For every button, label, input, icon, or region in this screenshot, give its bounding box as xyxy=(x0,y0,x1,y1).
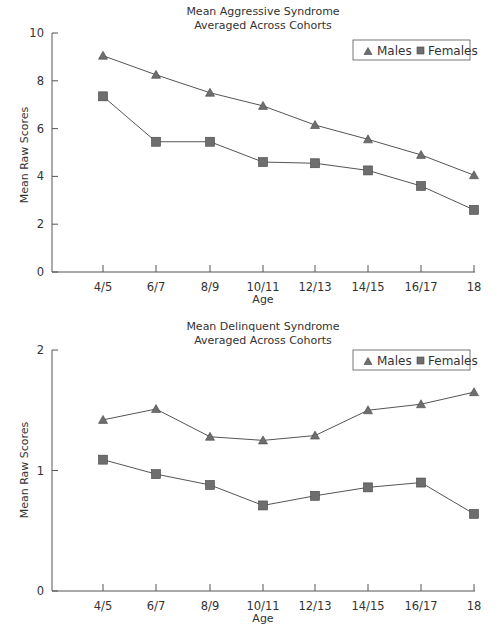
y-tick-label: 0 xyxy=(37,584,44,598)
x-tick-label: 16/17 xyxy=(404,280,437,294)
square-marker-icon xyxy=(417,478,426,487)
square-marker-icon xyxy=(259,501,268,510)
square-marker-icon xyxy=(470,205,479,214)
square-marker-icon xyxy=(311,491,320,500)
y-tick-label: 2 xyxy=(37,217,44,231)
square-marker-icon xyxy=(152,470,161,479)
x-axis: 4/56/78/910/1112/1314/1516/1718 xyxy=(52,265,481,294)
square-marker-icon xyxy=(470,509,479,518)
square-marker-icon xyxy=(152,137,161,146)
x-tick-label: 18 xyxy=(467,599,482,613)
x-axis-label: Age xyxy=(252,612,274,625)
y-tick-label: 6 xyxy=(37,122,44,136)
triangle-marker-icon xyxy=(470,171,479,179)
square-marker-icon xyxy=(99,455,108,464)
x-tick-label: 6/7 xyxy=(147,280,166,294)
legend-females: Females xyxy=(428,354,478,368)
y-tick-label: 4 xyxy=(37,169,44,183)
square-marker-icon xyxy=(259,158,268,167)
x-tick-label: 12/13 xyxy=(298,599,331,613)
triangle-marker-icon xyxy=(152,70,161,78)
y-tick-label: 2 xyxy=(37,343,44,357)
triangle-marker-icon xyxy=(206,432,215,440)
x-tick-label: 12/13 xyxy=(298,280,331,294)
x-tick-label: 4/5 xyxy=(94,599,113,613)
delinquent-syndrome-chart: Mean Delinquent Syndrome Averaged Across… xyxy=(18,320,481,625)
triangle-marker-icon xyxy=(206,88,215,96)
legend: Males Females xyxy=(353,40,478,60)
triangle-marker-icon xyxy=(152,405,161,413)
x-tick-label: 14/15 xyxy=(351,599,384,613)
square-marker-icon xyxy=(364,483,373,492)
x-axis-label: Age xyxy=(252,293,274,306)
x-tick-label: 14/15 xyxy=(351,280,384,294)
chart-title-line1: Mean Aggressive Syndrome xyxy=(186,5,339,18)
square-marker-icon xyxy=(206,480,215,489)
males-line xyxy=(103,392,474,440)
y-tick-label: 8 xyxy=(37,74,44,88)
triangle-marker-icon xyxy=(470,388,479,396)
x-axis: 4/56/78/910/1112/1314/1516/1718 xyxy=(52,584,481,613)
x-tick-label: 10/11 xyxy=(246,280,279,294)
triangle-marker-icon xyxy=(311,121,320,129)
legend-males: Males xyxy=(377,44,412,58)
y-tick-label: 10 xyxy=(29,26,44,40)
y-axis-label: Mean Raw Scores xyxy=(18,421,31,518)
square-marker-icon xyxy=(364,166,373,175)
square-marker-icon xyxy=(417,357,424,364)
series-lines xyxy=(99,388,479,519)
x-tick-label: 6/7 xyxy=(147,599,166,613)
chart-title-line2: Averaged Across Cohorts xyxy=(194,19,332,32)
y-tick-label: 0 xyxy=(37,265,44,279)
females-line xyxy=(103,96,474,210)
x-tick-label: 10/11 xyxy=(246,599,279,613)
square-marker-icon xyxy=(206,137,215,146)
square-marker-icon xyxy=(417,47,424,54)
y-axis: 012 xyxy=(37,343,58,598)
triangle-marker-icon xyxy=(311,431,320,439)
x-tick-label: 8/9 xyxy=(201,280,220,294)
legend: Males Females xyxy=(353,350,478,370)
chart-canvas: Mean Aggressive Syndrome Averaged Across… xyxy=(0,0,497,629)
x-tick-label: 4/5 xyxy=(94,280,113,294)
chart-title-line2: Averaged Across Cohorts xyxy=(194,334,332,347)
legend-females: Females xyxy=(428,44,478,58)
x-tick-label: 8/9 xyxy=(201,599,220,613)
series-lines xyxy=(99,51,479,214)
triangle-marker-icon xyxy=(99,51,108,59)
square-marker-icon xyxy=(99,92,108,101)
aggressive-syndrome-chart: Mean Aggressive Syndrome Averaged Across… xyxy=(18,5,481,306)
square-marker-icon xyxy=(417,181,426,190)
y-axis: 0246810 xyxy=(29,26,58,279)
square-marker-icon xyxy=(311,159,320,168)
x-tick-label: 18 xyxy=(467,280,482,294)
y-tick-label: 1 xyxy=(37,464,44,478)
chart-title-line1: Mean Delinquent Syndrome xyxy=(186,320,339,333)
legend-males: Males xyxy=(377,354,412,368)
x-tick-label: 16/17 xyxy=(404,599,437,613)
y-axis-label: Mean Raw Scores xyxy=(18,106,31,203)
